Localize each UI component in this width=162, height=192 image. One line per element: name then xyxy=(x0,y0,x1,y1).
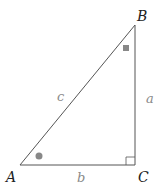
right-angle-marker xyxy=(126,157,135,165)
vertex-label-b: B xyxy=(136,8,147,24)
angle-b-square-marker xyxy=(123,45,129,51)
vertex-label-a: A xyxy=(4,169,16,185)
triangle-outline xyxy=(20,25,135,165)
side-label-c: c xyxy=(57,89,65,104)
angle-a-circle-marker xyxy=(36,153,43,160)
right-triangle-diagram: A B C c a b xyxy=(0,0,162,192)
side-label-a: a xyxy=(146,91,154,106)
vertex-label-c: C xyxy=(138,169,149,185)
side-label-b: b xyxy=(77,170,85,185)
